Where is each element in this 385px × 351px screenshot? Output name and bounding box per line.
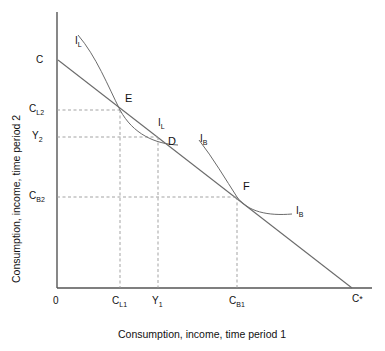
point-label-f: F [243, 181, 250, 192]
y-tick-label-cb2: CB2 [29, 191, 45, 203]
curve-label-il-lower: IL [158, 118, 165, 130]
x-tick-cb1-sub: B1 [236, 301, 245, 308]
x-tick-label-y1: Y1 [152, 296, 163, 308]
x-tick-label-origin: 0 [53, 296, 59, 306]
x-tick-label-cstar: C* [352, 294, 363, 304]
y-tick-y2-main: Y [32, 130, 39, 141]
y-tick-c-text: C [36, 54, 43, 65]
curve-label-ib-lower: IB [296, 206, 303, 218]
x-tick-label-cb1: CB1 [229, 296, 245, 308]
point-label-d: D [168, 136, 176, 147]
x-axis-title: Consumption, income, time period 1 [118, 329, 286, 340]
y-tick-label-cl2: CL2 [29, 104, 44, 116]
x-tick-label-cl1: CL1 [112, 296, 127, 308]
x-tick-y1-sub: 1 [159, 301, 163, 308]
y-tick-cb2-sub: B2 [36, 196, 45, 203]
budget-constraint-line [58, 60, 352, 288]
y-tick-label-y2: Y2 [32, 131, 43, 143]
y-axis-title: Consumption, income, time period 2 [11, 115, 22, 283]
curve-label-il-upper: IL [75, 36, 82, 48]
intertemporal-choice-diagram: Consumption, income, time period 2 Consu… [0, 0, 385, 351]
curve-ib-upper-sub: B [203, 139, 208, 146]
curve-il-upper-sub: L [78, 41, 82, 48]
y-tick-cl2-sub: L2 [36, 109, 44, 116]
curve-il-lower-sub: L [161, 123, 165, 130]
point-label-e: E [125, 93, 132, 104]
x-tick-y1-main: Y [152, 295, 159, 306]
y-tick-y2-sub: 2 [39, 136, 43, 143]
curve-ib-lower-sub: B [299, 211, 304, 218]
x-tick-cl1-sub: L1 [119, 301, 127, 308]
curve-label-ib-upper: IB [200, 134, 207, 146]
indifference-curve-borrower [199, 140, 292, 214]
y-tick-label-c: C [36, 55, 43, 65]
x-tick-cstar-star: * [359, 294, 363, 304]
